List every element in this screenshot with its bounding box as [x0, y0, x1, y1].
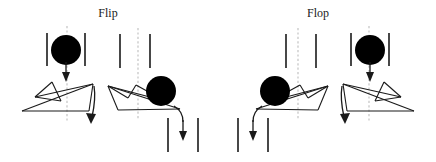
curved-arrow-head-icon [340, 113, 350, 124]
down-arrow-head-icon [179, 131, 187, 141]
down-arrow-head-icon [62, 72, 70, 82]
panel-flop-after [238, 28, 328, 152]
curved-arrow-head-icon [86, 113, 96, 124]
panel-flip-before [22, 26, 96, 124]
folded-paper-icon [22, 82, 93, 111]
folded-paper-icon [343, 82, 414, 111]
panel-flip-after [108, 28, 198, 152]
figure-artwork [0, 0, 436, 162]
down-arrow-head-icon [249, 131, 257, 141]
black-ball-icon [146, 76, 176, 106]
down-arrow-head-icon [366, 72, 374, 82]
black-ball-icon [260, 76, 290, 106]
black-ball-icon [355, 35, 385, 65]
panel-flop-before [340, 26, 414, 124]
flip-flop-figure: Flip Flop [0, 0, 436, 162]
black-ball-icon [51, 35, 81, 65]
